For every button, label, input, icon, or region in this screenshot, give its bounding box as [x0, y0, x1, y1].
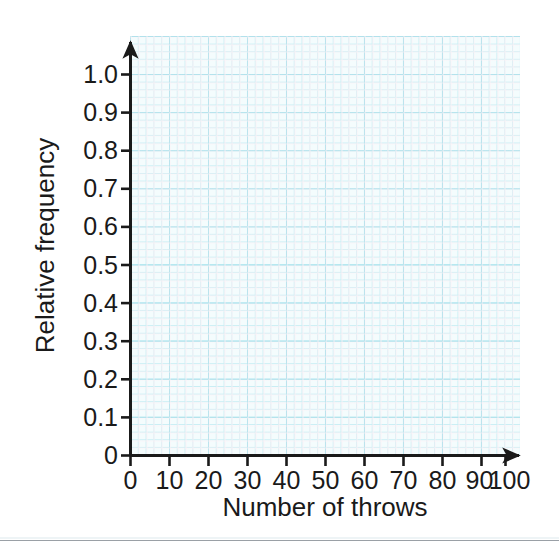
x-tick-label: 80 — [423, 468, 463, 493]
x-tick-label: 40 — [267, 468, 307, 493]
x-tick-label: 0 — [111, 468, 151, 493]
page-bottom-rule — [0, 540, 559, 541]
y-axis-title: Relative frequency — [30, 36, 62, 455]
x-tick-label: 60 — [345, 468, 385, 493]
x-tick-label: 20 — [189, 468, 229, 493]
x-tick-label: 10 — [150, 468, 190, 493]
x-axis-title: Number of throws — [130, 492, 520, 523]
x-tick-label: 50 — [306, 468, 346, 493]
y-axis-title-text: Relative frequency — [31, 138, 62, 353]
x-tick-label: 70 — [384, 468, 424, 493]
x-tick-label: 30 — [228, 468, 268, 493]
graph-figure: 1.0 0.9 0.8 0.7 0.6 0.5 0.4 0.3 0.2 0.1 … — [0, 0, 559, 548]
x-tick-label: 100 — [484, 468, 536, 493]
page-rule-soft — [0, 537, 559, 539]
x-axis-tick-labels: 0 10 20 30 40 50 60 70 80 90 100 — [0, 0, 559, 548]
